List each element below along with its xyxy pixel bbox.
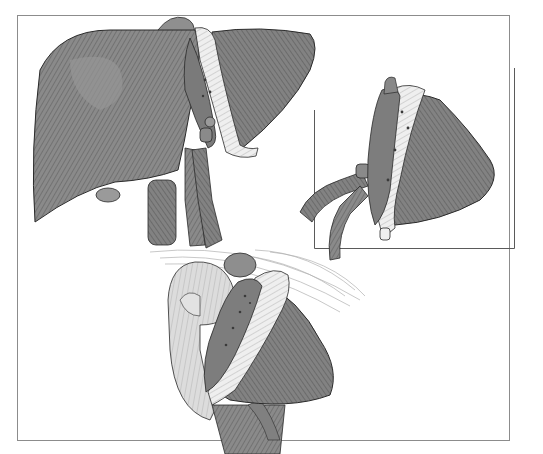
illustration-canvas	[0, 0, 543, 454]
graft-inset-panel	[300, 77, 494, 260]
graft-vein-stump	[380, 228, 390, 240]
portal-stump	[200, 128, 212, 142]
hepatic-duct-stump	[205, 117, 215, 127]
gallbladder	[96, 188, 120, 202]
implant-vena-cava	[224, 253, 256, 277]
implanted-graft-panel	[150, 250, 365, 454]
whole-liver-panel	[33, 17, 315, 248]
vena-cava-lower	[148, 180, 176, 245]
